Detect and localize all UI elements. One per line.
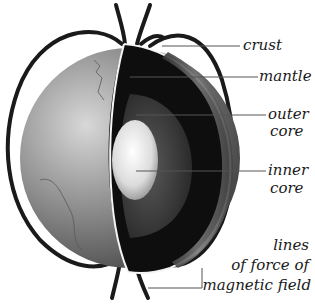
inner-core bbox=[112, 120, 158, 200]
label-outer-core-line1: outer bbox=[268, 106, 309, 123]
earth-structure-diagram: crust mantle outer core inner core lines… bbox=[0, 0, 315, 304]
label-inner-core-line1: inner bbox=[268, 162, 308, 179]
label-field-line1: lines bbox=[273, 237, 309, 254]
label-outer-core-line2: core bbox=[270, 123, 303, 140]
label-inner-core-line2: core bbox=[270, 180, 303, 197]
label-field-line2: of force of bbox=[231, 257, 309, 274]
label-crust: crust bbox=[243, 37, 282, 54]
label-mantle: mantle bbox=[259, 68, 312, 85]
label-field-line3: magnetic field bbox=[202, 277, 311, 294]
